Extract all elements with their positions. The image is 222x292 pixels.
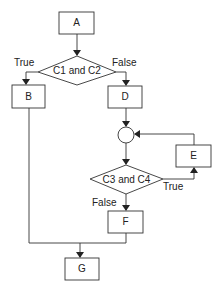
- edge-label-cond2-false: False: [92, 198, 116, 208]
- edge-cond1-true-to-b: [26, 72, 38, 84]
- edge-cond1-false-to-d: [116, 72, 126, 85]
- edge-e-to-junction: [135, 134, 194, 145]
- flowchart-canvas: A C1 and C2 B D E C3 and C4 F G True Fal…: [0, 0, 222, 292]
- edge-cond2-true-to-e: [163, 168, 194, 179]
- node-e-label: E: [176, 145, 211, 167]
- node-junction-circle: [118, 127, 134, 143]
- edge-label-cond2-true: True: [163, 182, 183, 192]
- node-cond2-label: C3 and C4: [90, 165, 163, 194]
- node-g-label: G: [65, 258, 99, 280]
- node-b-label: B: [12, 85, 45, 108]
- node-d-label: D: [108, 86, 142, 108]
- node-f-label: F: [108, 211, 143, 233]
- node-cond1-label: C1 and C2: [38, 56, 116, 85]
- node-a-label: A: [59, 12, 94, 34]
- edge-label-cond1-true: True: [14, 58, 34, 68]
- edge-label-cond1-false: False: [112, 58, 136, 68]
